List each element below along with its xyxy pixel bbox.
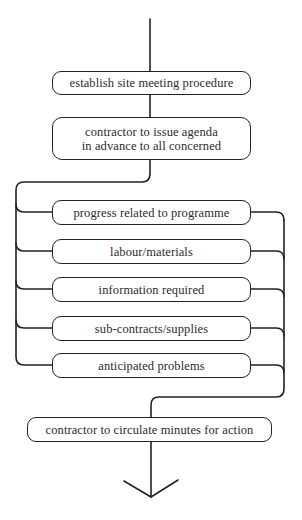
branch-right-5 [251, 365, 284, 373]
branch-left-1 [16, 204, 52, 212]
agenda-box: contractor to issue agenda in advance to… [52, 117, 251, 160]
agenda-box-line2: in advance to all concerned [82, 139, 221, 153]
branch-right-3 [251, 289, 284, 297]
agenda-item-label: anticipated problems [98, 359, 204, 373]
start-box: establish site meeting procedure [52, 71, 251, 95]
start-box-label: establish site meeting procedure [70, 76, 234, 90]
agenda-item-information: information required [52, 277, 251, 302]
agenda-item-labour: labour/materials [52, 239, 251, 264]
agenda-box-line1: contractor to issue agenda [82, 125, 221, 139]
branch-left-3 [16, 281, 52, 289]
end-box-label: contractor to circulate minutes for acti… [46, 423, 254, 437]
agenda-item-problems: anticipated problems [52, 353, 251, 378]
agenda-item-progress: progress related to programme [52, 200, 251, 225]
branch-right-1 [251, 212, 284, 220]
agenda-item-label: information required [99, 283, 205, 297]
branch-right-4 [251, 328, 284, 336]
branch-left-4 [16, 320, 52, 328]
branch-right-2 [251, 251, 284, 259]
agenda-item-subcontracts: sub-contracts/supplies [52, 316, 251, 341]
end-box: contractor to circulate minutes for acti… [27, 417, 272, 442]
agenda-item-label: progress related to programme [74, 206, 230, 220]
agenda-item-label: sub-contracts/supplies [95, 322, 208, 336]
agenda-item-label: labour/materials [110, 245, 193, 259]
branch-left-2 [16, 243, 52, 251]
